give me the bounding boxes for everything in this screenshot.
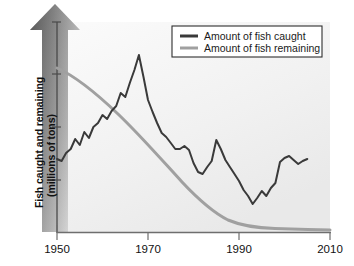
fish-stocks-chart: Fish caught and remaining (millions of t… [0, 0, 354, 266]
x-tick-label-2010: 2010 [308, 243, 352, 255]
x-tick-label-1990: 1990 [217, 243, 261, 255]
y-axis-label-line1: Fish caught and remaining [33, 77, 45, 208]
x-tick-label-1970: 1970 [126, 243, 170, 255]
legend-label-fish-caught: Amount of fish caught [204, 30, 306, 42]
x-tick-label-1950: 1950 [35, 243, 79, 255]
legend-label-fish-remaining: Amount of fish remaining [204, 42, 320, 54]
y-axis-label-line2: (millions of tons) [45, 114, 57, 197]
